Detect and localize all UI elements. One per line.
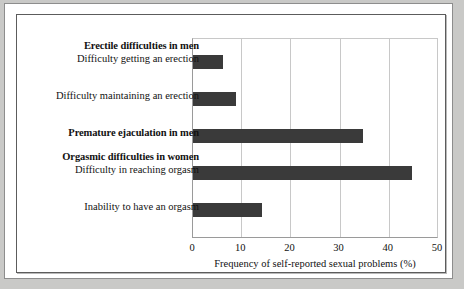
bar-difficulty-maintaining-erection[interactable]	[193, 92, 236, 106]
xtick-50: 50	[422, 242, 452, 253]
category-label-difficulty-getting-erection: Difficulty getting an erection	[0, 53, 199, 65]
bar-inability-to-orgasm[interactable]	[193, 203, 262, 217]
x-axis-label: Frequency of self-reported sexual proble…	[192, 258, 438, 269]
xtick-0: 0	[177, 242, 207, 253]
bar-chart: Erectile difficulties in men Difficulty …	[17, 15, 447, 274]
xtick-20: 20	[274, 242, 304, 253]
category-label-difficulty-reaching-orgasm: Difficulty in reaching orgasm	[0, 164, 199, 176]
bar-difficulty-reaching-orgasm[interactable]	[193, 166, 412, 180]
figure-panel: Erectile difficulties in men Difficulty …	[16, 14, 446, 273]
group-heading-orgasmic-difficulties: Orgasmic difficulties in women	[0, 151, 199, 163]
xtick-40: 40	[373, 242, 403, 253]
bar-premature-ejaculation[interactable]	[193, 129, 363, 143]
gridline-40	[389, 39, 390, 237]
plot-area	[192, 38, 438, 238]
category-label-inability-to-orgasm: Inability to have an orgasm	[0, 201, 199, 213]
xtick-30: 30	[324, 242, 354, 253]
group-heading-erectile-difficulties: Erectile difficulties in men	[0, 40, 199, 52]
outer-frame: Erectile difficulties in men Difficulty …	[4, 3, 453, 279]
xtick-10: 10	[225, 242, 255, 253]
category-label-premature-ejaculation: Premature ejaculation in men	[0, 127, 199, 139]
category-label-difficulty-maintaining-erection: Difficulty maintaining an erection	[0, 90, 199, 102]
